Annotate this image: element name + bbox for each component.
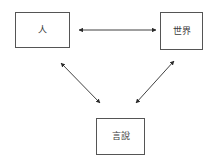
node-world[interactable]: 世界 — [160, 12, 203, 50]
edge-person-speech — [61, 63, 100, 103]
edge-speech-world — [136, 61, 174, 103]
node-person-label: 人 — [38, 26, 47, 35]
node-speech[interactable]: 言說 — [96, 118, 145, 155]
diagram-canvas: 人 世界 言說 — [0, 0, 214, 164]
node-person[interactable]: 人 — [15, 12, 70, 48]
node-world-label: 世界 — [173, 27, 191, 36]
node-speech-label: 言說 — [112, 132, 130, 141]
